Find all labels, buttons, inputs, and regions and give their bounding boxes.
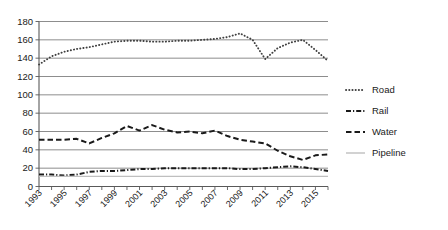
y-axis-tick-label: 60 (22, 126, 33, 137)
y-axis-tick-label: 160 (17, 34, 33, 45)
y-axis-tick-label: 40 (22, 144, 33, 155)
y-axis-tick-label: 100 (17, 89, 33, 100)
legend-label-road: Road (372, 84, 395, 95)
x-axis-tick-label: 1995 (48, 188, 69, 209)
legend-label-water: Water (372, 126, 397, 137)
gridlines (39, 22, 328, 187)
series-line-rail (39, 166, 328, 175)
y-axis-tick-label: 120 (17, 71, 33, 82)
line-chart: 020406080100120140160180 199319951997199… (0, 0, 448, 230)
x-axis-tick-label: 2013 (274, 188, 295, 209)
y-axis-tick-label: 80 (22, 107, 33, 118)
legend-label-pipeline: Pipeline (372, 147, 406, 158)
y-axis-tick-labels: 020406080100120140160180 (17, 16, 33, 192)
y-axis-tick-label: 0 (28, 181, 33, 192)
legend-label-rail: Rail (372, 105, 388, 116)
x-axis-tick-label: 1993 (23, 188, 44, 209)
data-series-group (39, 33, 328, 176)
axis-lines (39, 22, 328, 187)
series-line-water (39, 125, 328, 160)
x-axis-tick-label: 1997 (73, 188, 94, 209)
x-axis-tick-label: 1999 (98, 188, 119, 209)
chart-canvas: 020406080100120140160180 199319951997199… (0, 0, 448, 230)
y-axis-tick-label: 180 (17, 16, 33, 27)
x-axis-tick-label: 2003 (148, 188, 169, 209)
x-axis-tick-label: 2005 (173, 188, 194, 209)
y-axis-tick-label: 140 (17, 52, 33, 63)
x-axis-tick-label: 2009 (224, 188, 245, 209)
x-axis-tick-label: 2015 (299, 188, 320, 209)
x-axis-tick-label: 2007 (199, 188, 220, 209)
chart-legend: RoadRailWaterPipeline (346, 84, 406, 158)
x-axis-tick-labels: 1993199519971999200120032005200720092011… (23, 188, 321, 209)
x-axis-tick-label: 2001 (123, 188, 144, 209)
series-line-road (39, 33, 328, 64)
y-axis-tick-label: 20 (22, 162, 33, 173)
x-axis-tick-label: 2011 (249, 188, 270, 209)
